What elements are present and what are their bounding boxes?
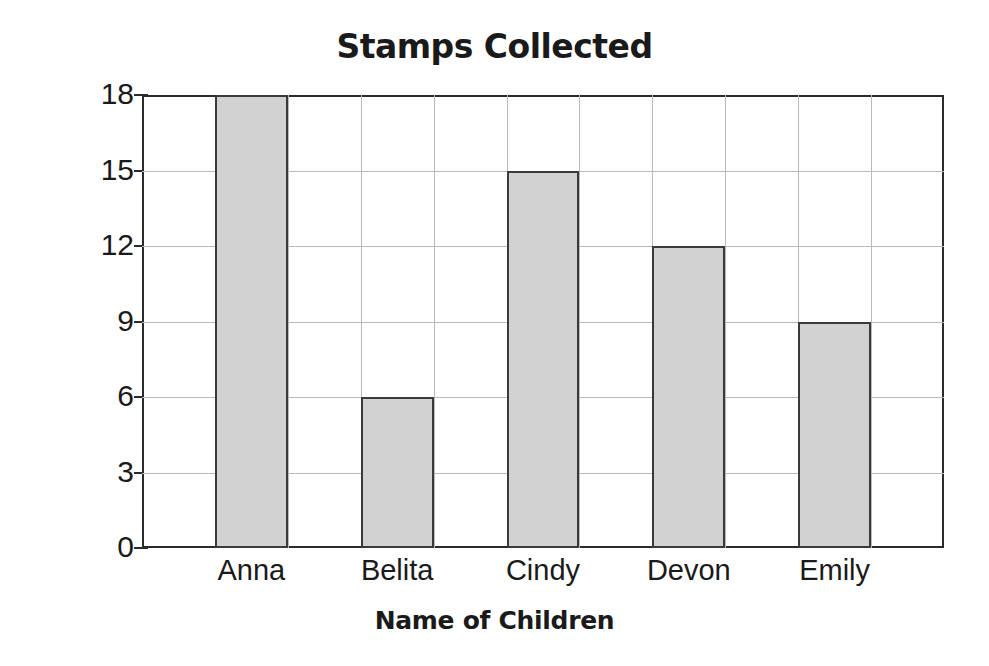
- x-axis-title: Name of Children: [0, 608, 989, 633]
- bar-anna: [215, 95, 288, 548]
- bar-devon: [652, 246, 725, 548]
- plot-area: [142, 95, 944, 548]
- y-tick-label: 12: [74, 230, 134, 260]
- gridline-vertical: [579, 95, 580, 548]
- y-tick-label: 15: [74, 155, 134, 185]
- bar-cindy: [507, 171, 580, 549]
- y-tick-label: 6: [74, 381, 134, 411]
- y-tick-label: 3: [74, 457, 134, 487]
- y-tick-label: 9: [74, 306, 134, 336]
- gridline-vertical: [288, 95, 289, 548]
- x-tick-label-anna: Anna: [178, 556, 324, 585]
- x-tick-label-belita: Belita: [324, 556, 470, 585]
- gridline-vertical: [871, 95, 872, 548]
- y-tick-label: 18: [74, 79, 134, 109]
- bar-belita: [361, 397, 434, 548]
- x-tick-label-emily: Emily: [762, 556, 908, 585]
- gridline-vertical: [434, 95, 435, 548]
- x-tick-label-cindy: Cindy: [470, 556, 616, 585]
- gridline-vertical: [725, 95, 726, 548]
- bar-emily: [798, 322, 871, 549]
- x-axis-ticks: AnnaBelitaCindyDevonEmily: [142, 556, 944, 600]
- chart-title: Stamps Collected: [0, 30, 989, 63]
- y-axis-ticks: 0369121518: [62, 95, 134, 548]
- y-tick-label: 0: [74, 532, 134, 562]
- x-tick-label-devon: Devon: [616, 556, 762, 585]
